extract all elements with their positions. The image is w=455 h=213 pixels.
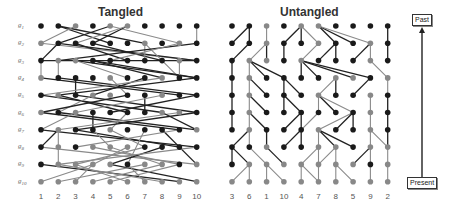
- node-dot: [125, 179, 131, 185]
- node-dot: [107, 58, 113, 64]
- lineage-edge: [284, 130, 301, 147]
- node-dot: [107, 127, 113, 133]
- node-dot: [107, 179, 113, 185]
- node-dot: [281, 179, 287, 185]
- node-dot: [247, 144, 253, 150]
- lineage-edge: [301, 113, 318, 130]
- node-dot: [350, 162, 356, 168]
- node-dot: [264, 58, 270, 64]
- lineage-edge: [319, 95, 336, 112]
- node-dot: [264, 162, 270, 168]
- column-label: 1: [259, 192, 275, 201]
- node-dot: [385, 127, 391, 133]
- node-dot: [333, 179, 339, 185]
- node-dot: [125, 92, 131, 98]
- arrow-up-icon: [419, 27, 425, 33]
- node-dot: [38, 41, 44, 47]
- node-dot: [38, 144, 44, 150]
- lineage-edge: [319, 43, 336, 60]
- node-dot: [247, 127, 253, 133]
- lineage-edge: [249, 147, 266, 164]
- node-dot: [177, 110, 183, 116]
- node-dot: [247, 23, 253, 29]
- node-dot: [125, 127, 131, 133]
- node-dot: [56, 92, 62, 98]
- past-label: Past: [412, 14, 432, 26]
- node-dot: [316, 127, 322, 133]
- node-dot: [264, 92, 270, 98]
- lineage-edge: [284, 95, 301, 112]
- node-dot: [90, 41, 96, 47]
- node-dot: [159, 75, 165, 81]
- node-dot: [177, 75, 183, 81]
- node-dot: [73, 23, 79, 29]
- node-dot: [107, 23, 113, 29]
- node-dot: [247, 75, 253, 81]
- node-dot: [159, 179, 165, 185]
- node-dot: [177, 41, 183, 47]
- node-dot: [333, 127, 339, 133]
- node-dot: [73, 75, 79, 81]
- node-dot: [368, 127, 374, 133]
- lineage-edge: [284, 113, 301, 130]
- node-dot: [107, 144, 113, 150]
- node-dot: [194, 41, 200, 47]
- node-dot: [368, 92, 374, 98]
- node-dot: [73, 41, 79, 47]
- node-dot: [56, 23, 62, 29]
- lineage-edge: [41, 130, 197, 147]
- column-label: 2: [50, 192, 66, 201]
- node-dot: [229, 41, 235, 47]
- node-dot: [142, 179, 148, 185]
- node-dot: [125, 75, 131, 81]
- node-dot: [177, 92, 183, 98]
- node-dot: [264, 179, 270, 185]
- lineage-edge: [249, 43, 266, 60]
- node-dot: [73, 179, 79, 185]
- node-dot: [142, 127, 148, 133]
- node-dot: [229, 144, 235, 150]
- node-dot: [90, 144, 96, 150]
- node-dot: [385, 58, 391, 64]
- node-dot: [125, 144, 131, 150]
- lineage-edge: [232, 147, 249, 164]
- node-dot: [159, 144, 165, 150]
- node-dot: [159, 110, 165, 116]
- node-dot: [281, 110, 287, 116]
- node-dot: [298, 162, 304, 168]
- node-dot: [142, 58, 148, 64]
- node-dot: [194, 162, 200, 168]
- node-dot: [281, 144, 287, 150]
- node-dot: [229, 92, 235, 98]
- lineage-edge: [370, 61, 387, 78]
- node-dot: [142, 92, 148, 98]
- generation-label: g4: [18, 73, 24, 82]
- node-dot: [159, 58, 165, 64]
- node-dot: [38, 162, 44, 168]
- node-dot: [194, 75, 200, 81]
- column-label: 9: [362, 192, 378, 201]
- node-dot: [194, 179, 200, 185]
- lineage-edge: [353, 43, 370, 60]
- node-dot: [350, 127, 356, 133]
- node-dot: [350, 110, 356, 116]
- generation-label: g10: [18, 177, 27, 186]
- node-dot: [385, 110, 391, 116]
- node-dot: [194, 92, 200, 98]
- node-dot: [142, 110, 148, 116]
- node-dot: [385, 144, 391, 150]
- node-dot: [264, 75, 270, 81]
- column-label: 4: [293, 192, 309, 201]
- node-dot: [316, 110, 322, 116]
- node-dot: [385, 41, 391, 47]
- node-dot: [368, 75, 374, 81]
- column-label: 5: [345, 192, 361, 201]
- column-label: 10: [189, 192, 205, 201]
- lineage-edge: [301, 164, 318, 181]
- lineage-edge: [232, 164, 249, 181]
- node-dot: [142, 23, 148, 29]
- node-dot: [177, 179, 183, 185]
- node-dot: [385, 92, 391, 98]
- node-dot: [159, 162, 165, 168]
- column-label: 9: [171, 192, 187, 201]
